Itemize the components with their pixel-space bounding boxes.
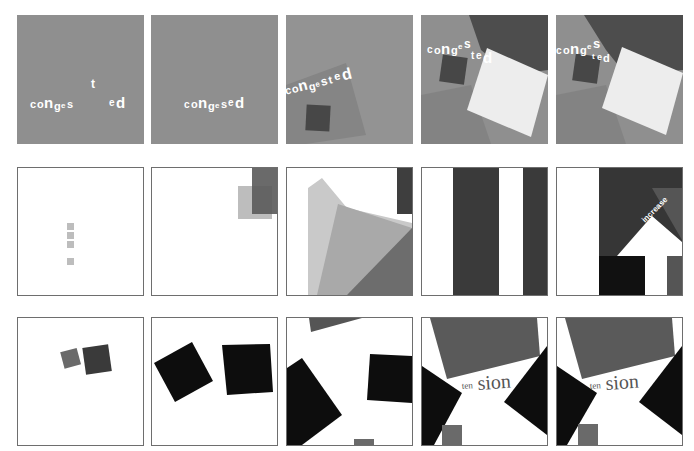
- gray-bottom-square: [578, 424, 598, 445]
- panel-congested-5-art: c o n g e s t e d: [556, 15, 683, 144]
- panel-increase-5: increase: [556, 167, 683, 296]
- svg-text:e: e: [587, 42, 592, 51]
- panel-increase-5-art: increase: [557, 168, 682, 295]
- svg-text:c: c: [30, 98, 36, 110]
- letter-t: t: [91, 77, 95, 91]
- svg-text:n: n: [198, 94, 207, 111]
- svg-text:s: s: [464, 37, 471, 51]
- tension-large-label: sion: [605, 370, 640, 394]
- svg-text:c: c: [184, 99, 190, 110]
- panel-congested-5: c o n g e s t e d: [556, 15, 683, 144]
- panel-increase-2-art: [152, 168, 277, 295]
- svg-text:d: d: [603, 52, 610, 64]
- panel-congested-4-art: c o n g e s t e d: [421, 15, 548, 144]
- svg-text:s: s: [67, 98, 73, 110]
- small-square: [67, 241, 74, 248]
- dark-bar: [397, 168, 412, 214]
- panel-increase-3-art: [287, 168, 412, 295]
- dark-square: [82, 344, 112, 374]
- panel-tension-3: [286, 317, 413, 446]
- svg-text:c: c: [556, 45, 562, 56]
- dark-square: [439, 54, 468, 84]
- panel-increase-1-art: [18, 168, 143, 295]
- panel-tension-2-art: [152, 318, 277, 445]
- svg-text:n: n: [44, 94, 53, 111]
- svg-text:t: t: [592, 52, 595, 61]
- svg-text:e: e: [458, 42, 463, 51]
- dark-stripe-narrow: [523, 168, 547, 295]
- tension-small-label: ten: [461, 380, 473, 391]
- svg-text:d: d: [235, 94, 244, 111]
- panel-congested-1: t c o n g e s e d: [17, 15, 144, 144]
- svg-text:e: e: [597, 52, 602, 62]
- svg-text:o: o: [434, 44, 441, 56]
- svg-text:e: e: [215, 101, 220, 110]
- panel-congested-3-art: c o n g e s t e d: [286, 15, 413, 144]
- panel-increase-2: [151, 167, 278, 296]
- svg-text:e: e: [476, 50, 482, 61]
- panel-congested-4: c o n g e s t e d: [421, 15, 548, 144]
- panel-tension-3-art: [287, 318, 412, 445]
- mid-block: [667, 256, 682, 295]
- gray-bottom-bar: [354, 439, 374, 445]
- tension-large-label: sion: [477, 370, 512, 394]
- small-square: [67, 223, 74, 230]
- panel-tension-4-art: ten sion: [422, 318, 547, 445]
- svg-text:n: n: [570, 40, 579, 57]
- svg-text:g: g: [580, 44, 587, 56]
- panel-tension-2: [151, 317, 278, 446]
- panel-congested-1-art: t c o n g e s e d: [17, 15, 144, 144]
- panel-congested-3: c o n g e s t e d: [286, 15, 413, 144]
- panel-tension-5-art: ten sion: [557, 318, 682, 445]
- svg-text:g: g: [54, 100, 61, 112]
- svg-text:s: s: [221, 98, 227, 110]
- svg-text:s: s: [593, 36, 600, 51]
- panel-increase-4-art: [422, 168, 547, 295]
- panel-congested-2: c o n g e s e d: [151, 15, 278, 144]
- svg-text:e: e: [109, 97, 115, 108]
- panel-tension-4: ten sion: [421, 317, 548, 446]
- panel-tension-1: [17, 317, 144, 446]
- black-block: [599, 256, 645, 295]
- svg-text:o: o: [563, 44, 570, 56]
- panel-increase-4: [421, 167, 548, 296]
- black-right-shape: [367, 354, 412, 403]
- svg-text:n: n: [441, 40, 450, 57]
- tension-small-label: ten: [589, 380, 601, 391]
- panel-congested-2-art: c o n g e s e d: [151, 15, 278, 144]
- dark-rectangle: [252, 168, 277, 214]
- svg-text:o: o: [191, 98, 198, 110]
- panel-tension-1-art: [18, 318, 143, 445]
- svg-text:e: e: [228, 97, 234, 108]
- svg-text:o: o: [37, 98, 44, 110]
- dark-stripe-wide: [453, 168, 499, 295]
- gray-bottom-square: [442, 425, 462, 445]
- svg-text:e: e: [61, 101, 66, 110]
- svg-text:c: c: [427, 44, 433, 55]
- panel-increase-1: [17, 167, 144, 296]
- small-square: [67, 232, 74, 239]
- small-square: [67, 258, 74, 265]
- panel-tension-5: ten sion: [556, 317, 683, 446]
- svg-text:g: g: [451, 44, 458, 56]
- svg-text:g: g: [208, 100, 215, 112]
- svg-text:d: d: [116, 94, 125, 111]
- black-tilted-square-right: [222, 344, 273, 395]
- dark-square: [305, 104, 330, 131]
- svg-text:d: d: [483, 49, 492, 66]
- panel-increase-3: [286, 167, 413, 296]
